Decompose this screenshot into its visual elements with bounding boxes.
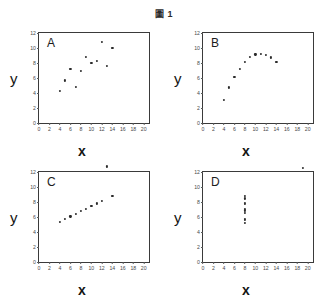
panel-letter-c: C	[47, 175, 56, 189]
y-tick-label: 0	[197, 259, 200, 265]
plot-area-c: C 02468101202468101214161820	[38, 171, 150, 263]
data-point	[59, 220, 61, 222]
x-tick-label: 10	[252, 126, 258, 132]
panel-c: y C 02468101202468101214161820 x	[0, 163, 164, 302]
x-tick-label: 4	[58, 265, 61, 271]
x-tick-label: 20	[305, 126, 311, 132]
x-tick-label: 18	[294, 265, 300, 271]
x-tick-label: 8	[243, 265, 246, 271]
data-point	[228, 86, 230, 88]
data-point	[270, 56, 272, 58]
y-tick-label: 10	[194, 184, 200, 190]
y-tick-label: 4	[33, 90, 36, 96]
y-tick-label: 6	[197, 75, 200, 81]
y-tick-label: 10	[30, 45, 36, 51]
y-tick-label: 12	[194, 30, 200, 36]
data-point	[101, 200, 103, 202]
y-tick-label: 8	[33, 199, 36, 205]
x-tick-label: 16	[284, 126, 290, 132]
data-point	[111, 47, 113, 49]
x-tick-label: 0	[38, 126, 41, 132]
data-point	[96, 202, 98, 204]
y-tick-label: 10	[194, 45, 200, 51]
panel-letter-b: B	[211, 36, 219, 50]
x-tick-label: 16	[284, 265, 290, 271]
x-tick-label: 18	[294, 126, 300, 132]
y-axis-label-b: y	[174, 70, 182, 87]
x-tick-label: 12	[263, 265, 269, 271]
y-axis-label-a: y	[10, 70, 18, 87]
panel-letter-a: A	[47, 36, 55, 50]
data-point	[75, 86, 77, 88]
y-tick-label: 2	[33, 105, 36, 111]
x-tick-label: 20	[141, 126, 147, 132]
y-tick-label: 8	[197, 60, 200, 66]
data-point	[265, 53, 267, 55]
panel-a: y A 02468101202468101214161820 x	[0, 24, 164, 163]
y-axis-label-c: y	[10, 209, 18, 226]
y-tick-label: 2	[197, 105, 200, 111]
data-point	[106, 65, 108, 67]
x-tick-label: 2	[212, 265, 215, 271]
data-point	[244, 197, 246, 199]
data-point	[244, 61, 246, 63]
x-tick-label: 4	[222, 265, 225, 271]
x-tick-label: 12	[99, 265, 105, 271]
data-point	[75, 213, 77, 215]
data-point	[90, 205, 92, 207]
x-tick-label: 4	[58, 126, 61, 132]
data-point	[233, 76, 235, 78]
data-point	[64, 218, 66, 220]
y-tick-label: 4	[197, 229, 200, 235]
plot-area-a: A 02468101202468101214161820	[38, 32, 150, 124]
x-tick-label: 14	[109, 126, 115, 132]
data-point	[260, 52, 262, 54]
data-point	[106, 165, 108, 167]
panel-d: y D 02468101202468101214161820 x	[164, 163, 328, 302]
x-tick-label: 10	[88, 265, 94, 271]
y-tick-label: 4	[197, 90, 200, 96]
figure-title: 圖 1	[0, 7, 328, 20]
x-axis-label-b: x	[164, 143, 328, 159]
data-point	[80, 70, 82, 72]
data-point	[59, 90, 61, 92]
x-tick-label: 2	[48, 126, 51, 132]
x-tick-label: 14	[273, 265, 279, 271]
y-axis-label-d: y	[174, 209, 182, 226]
y-tick-label: 10	[30, 184, 36, 190]
data-point	[69, 215, 71, 217]
x-axis-label-c: x	[0, 282, 164, 298]
panel-b: y B 02468101202468101214161820 x	[164, 24, 328, 163]
x-tick-label: 2	[48, 265, 51, 271]
y-tick-label: 6	[33, 214, 36, 220]
x-tick-label: 20	[141, 265, 147, 271]
x-axis-label-d: x	[164, 282, 328, 298]
y-tick-label: 0	[33, 120, 36, 126]
x-tick-label: 2	[212, 126, 215, 132]
x-tick-label: 8	[79, 126, 82, 132]
panel-grid: y A 02468101202468101214161820 x y B 024…	[0, 24, 328, 302]
x-tick-label: 0	[202, 265, 205, 271]
y-tick-label: 6	[197, 214, 200, 220]
data-point	[244, 222, 246, 224]
data-point	[80, 210, 82, 212]
y-tick-label: 12	[30, 30, 36, 36]
x-tick-label: 8	[79, 265, 82, 271]
x-tick-label: 0	[202, 126, 205, 132]
x-axis-label-a: x	[0, 143, 164, 159]
x-tick-label: 18	[130, 126, 136, 132]
data-point	[223, 99, 225, 101]
y-tick-label: 0	[33, 259, 36, 265]
x-tick-label: 6	[69, 265, 72, 271]
x-tick-label: 10	[88, 126, 94, 132]
data-point	[96, 59, 98, 61]
y-tick-label: 8	[33, 60, 36, 66]
plot-area-b: B 02468101202468101214161820	[202, 32, 314, 124]
x-tick-label: 20	[305, 265, 311, 271]
x-tick-label: 6	[233, 265, 236, 271]
x-tick-label: 12	[263, 126, 269, 132]
data-point	[111, 195, 113, 197]
data-point	[69, 68, 71, 70]
x-tick-label: 6	[69, 126, 72, 132]
x-tick-label: 8	[243, 126, 246, 132]
